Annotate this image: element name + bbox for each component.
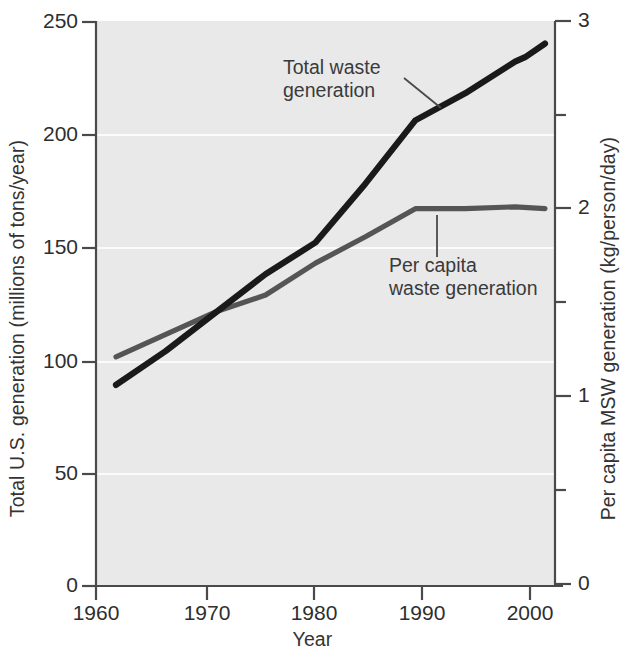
annotation-per-capita-line2: waste generation (389, 277, 538, 300)
y-axis-left-ticks (82, 22, 96, 586)
x-tick-1980: 1980 (269, 601, 359, 625)
x-tick-1970: 1970 (162, 601, 252, 625)
chart-figure: 250 200 150 100 50 0 3 2 1 0 1960 1970 1… (0, 0, 625, 657)
x-tick-1990: 1990 (377, 601, 467, 625)
annotation-per-capita-line1: Per capita (389, 254, 538, 277)
annotation-total-waste-generation: Total waste generation (283, 56, 381, 102)
x-axis-ticks (96, 586, 530, 600)
y-axis-right-title: Per capita MSW generation (kg/person/day… (591, 0, 625, 657)
y-axis-left-title: Total U.S. generation (millions of tons/… (0, 0, 34, 657)
y-axis-right-ticks (555, 21, 571, 584)
plot-background (96, 21, 555, 586)
annotation-total-waste-line2: generation (283, 79, 381, 102)
annotation-per-capita-waste-generation: Per capita waste generation (389, 254, 538, 300)
x-tick-1960: 1960 (51, 601, 141, 625)
x-axis-title: Year (0, 628, 625, 651)
annotation-total-waste-line1: Total waste (283, 56, 381, 79)
x-tick-2000: 2000 (485, 601, 575, 625)
